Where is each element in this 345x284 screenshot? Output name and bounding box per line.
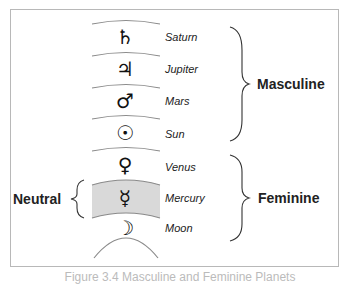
sphere-arc — [92, 148, 160, 152]
sphere-arc — [92, 116, 160, 120]
mercury-icon: ☿ — [105, 186, 145, 210]
saturn-icon: ♄ — [105, 25, 145, 49]
planet-label-sun: Sun — [165, 127, 185, 141]
planet-label-jupiter: Jupiter — [165, 62, 198, 76]
mars-icon: ♂ — [105, 89, 145, 113]
group-label-feminine: Feminine — [258, 190, 319, 206]
feminine-brace — [230, 155, 249, 241]
planet-label-saturn: Saturn — [165, 30, 197, 44]
planet-label-mars: Mars — [165, 94, 189, 108]
moon-icon: ☽ — [105, 216, 145, 240]
sun-icon: ☉ — [105, 121, 145, 145]
figure-caption: Figure 3.4 Masculine and Feminine Planet… — [60, 270, 300, 284]
neutral-brace — [71, 180, 84, 218]
venus-icon: ♀ — [105, 153, 145, 177]
sphere-arc — [92, 53, 160, 57]
masculine-brace — [230, 27, 249, 141]
group-label-neutral: Neutral — [13, 191, 61, 207]
planet-label-mercury: Mercury — [165, 191, 205, 205]
sphere-arc — [92, 21, 160, 25]
earth-dome-arc — [94, 238, 158, 258]
jupiter-icon: ♃ — [105, 57, 145, 81]
planet-label-moon: Moon — [165, 221, 193, 235]
planet-label-venus: Venus — [165, 160, 196, 174]
group-label-masculine: Masculine — [257, 76, 325, 92]
sphere-arc — [92, 85, 160, 89]
